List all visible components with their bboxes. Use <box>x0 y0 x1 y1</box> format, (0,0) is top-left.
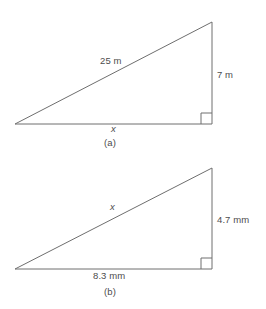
triangle-b-hypotenuse-label: x <box>110 202 115 212</box>
triangles-svg <box>0 0 266 309</box>
triangle-a-outline <box>15 22 212 124</box>
triangle-a-hypotenuse-label: 25 m <box>100 56 122 66</box>
figure-container: 25 m 7 m x (a) x 4.7 mm 8.3 mm (b) <box>0 0 266 309</box>
triangle-b-vertical-label: 4.7 mm <box>217 215 249 225</box>
triangle-b-base-label: 8.3 mm <box>93 271 125 281</box>
triangle-a <box>15 22 212 124</box>
triangle-b-outline <box>15 168 212 269</box>
triangle-a-vertical-label: 7 m <box>217 70 233 80</box>
right-angle-marker-b <box>201 258 212 269</box>
triangle-a-base-label: x <box>111 124 116 134</box>
caption-b: (b) <box>104 287 116 297</box>
caption-a: (a) <box>104 138 116 148</box>
right-angle-marker-a <box>201 113 212 124</box>
triangle-b <box>15 168 212 269</box>
